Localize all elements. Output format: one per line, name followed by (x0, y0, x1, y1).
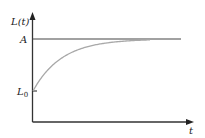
initial-value-label: L0 (16, 86, 28, 99)
x-axis-label: t (189, 125, 194, 136)
growth-curve (33, 40, 150, 91)
y-axis-label: L(t) (10, 16, 30, 27)
graph-figure: L(t) A L0 t (0, 0, 205, 138)
asymptote-label: A (19, 34, 27, 45)
y-axis-arrow-icon (30, 12, 36, 20)
